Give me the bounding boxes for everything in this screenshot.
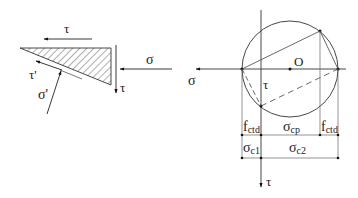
stress-element: τ τ σ τ' σ'	[20, 21, 172, 114]
sigma-prime-label: σ'	[38, 87, 48, 102]
chord-top-right	[320, 31, 338, 69]
mohr-circle-diagram: σ τ τ O fctd σcp	[188, 10, 346, 189]
fctd-left-label: fctd	[243, 119, 260, 135]
tau-axis-label: τ	[266, 174, 271, 189]
center-label: O	[294, 54, 303, 69]
tau-prime-label: τ'	[29, 67, 37, 82]
chord-left-top	[242, 31, 320, 69]
fctd-right-label: fctd	[321, 119, 338, 135]
chord-left-bottom	[242, 69, 261, 106]
tau-top-label: τ	[64, 21, 69, 36]
diagram-canvas: τ τ σ τ' σ' σ τ τ O	[0, 0, 358, 198]
tau-axis-inner-label: τ	[263, 77, 268, 92]
sigma-axis-label: σ	[188, 73, 196, 88]
sc2-label: σc2	[289, 140, 306, 156]
tau-right-label: τ	[120, 80, 125, 95]
scp-label: σcp	[283, 119, 300, 135]
sc1-label: σc1	[243, 140, 260, 156]
center-point	[289, 68, 292, 71]
sigma-right-label: σ	[146, 52, 154, 67]
sigma-prime-arrow	[47, 71, 61, 114]
